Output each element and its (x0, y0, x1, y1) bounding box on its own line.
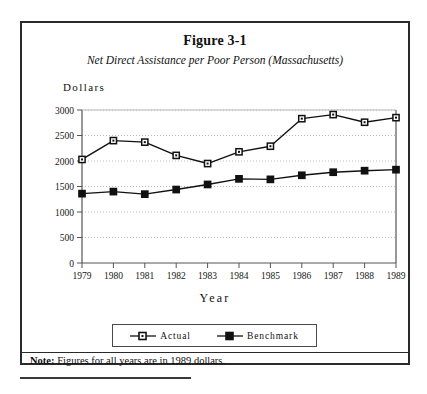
svg-text:0: 0 (69, 259, 74, 269)
svg-text:500: 500 (60, 233, 75, 243)
svg-text:3000: 3000 (55, 106, 74, 116)
svg-text:2500: 2500 (55, 131, 74, 141)
chart-legend: Actual Benchmark (112, 324, 317, 347)
svg-text:2000: 2000 (55, 157, 74, 167)
svg-text:1980: 1980 (104, 271, 123, 281)
svg-text:1000: 1000 (55, 208, 74, 218)
svg-text:1987: 1987 (324, 271, 343, 281)
legend-item-actual[interactable]: Actual (130, 331, 191, 341)
x-axis-ticks (82, 263, 396, 268)
legend-label-actual: Actual (160, 331, 191, 341)
svg-text:1500: 1500 (55, 182, 74, 192)
open-square-marker-icon (130, 331, 156, 341)
svg-text:1989: 1989 (387, 271, 406, 281)
legend-item-benchmark[interactable]: Benchmark (217, 331, 299, 341)
y-axis-tick-labels: 050010001500200025003000 (55, 106, 74, 269)
figure-note: Note: Figures for all years are in 1989 … (30, 355, 225, 366)
plot-area: 050010001500200025003000 197919801981198… (22, 23, 408, 363)
note-divider (22, 352, 408, 353)
svg-text:1982: 1982 (167, 271, 186, 281)
svg-text:1985: 1985 (261, 271, 280, 281)
svg-text:1984: 1984 (230, 271, 249, 281)
y-axis-ticks (77, 110, 82, 263)
figure-container: Figure 3-1 Net Direct Assistance per Poo… (20, 21, 410, 365)
x-axis-tick-labels: 1979198019811982198319841985198619871988… (73, 271, 406, 281)
line-chart-svg: 050010001500200025003000 197919801981198… (22, 23, 408, 323)
note-label: Note: (30, 355, 55, 366)
svg-text:1988: 1988 (355, 271, 374, 281)
note-text: Figures for all years are in 1989 dollar… (55, 355, 226, 366)
svg-text:1983: 1983 (198, 271, 217, 281)
svg-text:1981: 1981 (135, 271, 154, 281)
svg-text:1979: 1979 (73, 271, 92, 281)
legend-label-benchmark: Benchmark (247, 331, 299, 341)
x-axis-title: Year (22, 291, 408, 306)
data-series-layer (79, 111, 399, 197)
gridlines (82, 110, 396, 238)
footnote-separator-rule (20, 377, 191, 379)
filled-square-marker-icon (217, 331, 243, 341)
svg-text:1986: 1986 (292, 271, 311, 281)
